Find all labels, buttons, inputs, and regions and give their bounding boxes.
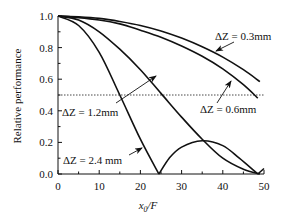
x-tick-label: 20 — [135, 180, 147, 192]
annotation-dz-0.6: ΔZ = 0.6mm — [200, 81, 257, 115]
x-axis-title: x0/F — [138, 199, 158, 214]
arrow-icon — [217, 81, 231, 103]
arrow-icon — [216, 42, 234, 51]
y-tick-label: 0.6 — [39, 73, 53, 85]
annotation-dz-2.4: ΔZ = 2.4 mm — [63, 148, 142, 166]
annotation-dz-0.3: ΔZ = 0.3mm — [215, 30, 272, 51]
annotation-label-dz-0.6: ΔZ = 0.6mm — [200, 103, 257, 115]
arrow-icon — [129, 148, 142, 155]
x-tick-label: 30 — [176, 180, 188, 192]
y-tick-label: 0.8 — [39, 42, 53, 54]
x-tick-label: 40 — [217, 180, 229, 192]
series-curve-0 — [58, 16, 260, 82]
y-axis-title: Relative performance — [11, 48, 23, 143]
annotation-label-dz-1.2: ΔZ = 1.2mm — [62, 106, 119, 118]
annotation-dz-1.2: ΔZ = 1.2mm — [62, 76, 156, 118]
y-tick-label: 0.0 — [39, 168, 53, 180]
x-tick-label: 50 — [259, 180, 271, 192]
x-tick-label: 10 — [94, 180, 106, 192]
arrow-icon — [116, 76, 156, 103]
y-tick-label: 1.0 — [39, 10, 53, 22]
annotation-label-dz-0.3: ΔZ = 0.3mm — [215, 30, 272, 42]
y-tick-label: 0.2 — [39, 136, 53, 148]
y-tick-label: 0.4 — [39, 105, 53, 117]
x-tick-label: 0 — [55, 180, 61, 192]
x-ticks: 01020304050 — [55, 170, 270, 192]
relative-performance-chart: Relative performance 0.00.20.40.60.81.0 … — [0, 0, 286, 224]
annotation-label-dz-2.4: ΔZ = 2.4 mm — [63, 154, 123, 166]
